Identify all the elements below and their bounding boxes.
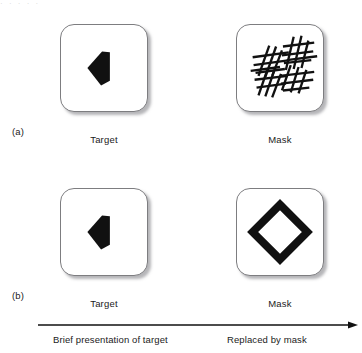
crosshatch-lines-mask-icon xyxy=(237,25,323,111)
panel-a-target-caption: Target xyxy=(60,134,148,145)
panel-b-mask-caption: Mask xyxy=(236,298,324,309)
panel-b-mask-card xyxy=(236,188,324,276)
timeline-arrow xyxy=(38,320,358,332)
solid-truncated-diamond-icon xyxy=(61,25,147,111)
row-label-b: (b) xyxy=(12,290,24,301)
outline-diamond-mask-icon xyxy=(237,189,323,275)
panel-a-target-card xyxy=(60,24,148,112)
timeline-right-caption: Replaced by mask xyxy=(227,334,307,345)
panel-b-target-caption: Target xyxy=(60,298,148,309)
panel-a-mask-caption: Mask xyxy=(236,134,324,145)
panel-a-mask-card xyxy=(236,24,324,112)
panel-b-target-card xyxy=(60,188,148,276)
timeline-left-caption: Brief presentation of target xyxy=(53,334,168,345)
row-label-a: (a) xyxy=(12,126,24,137)
backward-masking-figure: · · · · · (a) Target xyxy=(0,0,362,353)
cropped-text-artifact: · · · · · xyxy=(0,0,362,7)
solid-truncated-diamond-icon xyxy=(61,189,147,275)
